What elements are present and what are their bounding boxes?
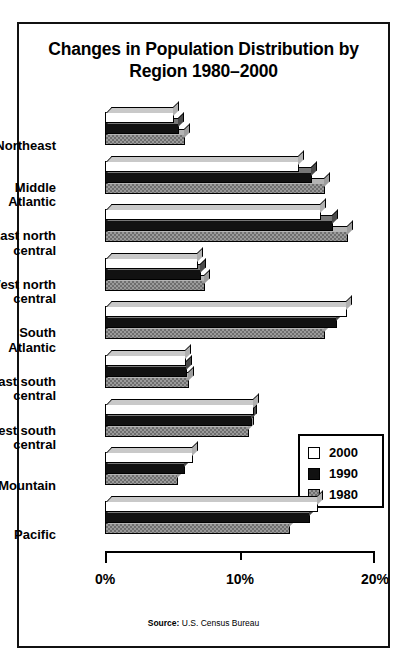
bar-top-face xyxy=(106,301,351,307)
source-prefix: Source: xyxy=(148,618,180,628)
bar-1980 xyxy=(105,523,290,534)
bar-1990 xyxy=(105,366,187,377)
bar-1980 xyxy=(105,474,178,485)
bar-group xyxy=(105,398,375,437)
bar-1980 xyxy=(105,183,325,194)
source-text: U.S. Census Bureau xyxy=(179,618,259,628)
category-label: Middle Atlantic xyxy=(0,181,56,210)
legend-item-1990[interactable]: 1990 xyxy=(308,463,382,484)
x-tick-label: 20% xyxy=(361,571,389,587)
bar-1990 xyxy=(105,123,179,134)
bar-1980 xyxy=(105,280,205,291)
bar-1990 xyxy=(105,512,310,523)
bar-top-face xyxy=(106,496,323,502)
bar-side-face xyxy=(346,296,352,311)
bar-top-face xyxy=(106,447,198,453)
bar-2000 xyxy=(105,501,318,512)
bar-group xyxy=(105,349,375,388)
category-label: West north central xyxy=(0,278,56,307)
category-label: East south central xyxy=(0,375,56,404)
bar-group xyxy=(105,155,375,194)
bar-2000 xyxy=(105,306,347,317)
category-label: Pacific xyxy=(0,528,56,543)
x-tick xyxy=(373,553,375,563)
bar-side-face xyxy=(347,220,353,235)
bar-2000 xyxy=(105,355,186,366)
bar-side-face xyxy=(253,393,259,408)
legend-label: 1990 xyxy=(329,466,358,481)
legend-swatch-2000 xyxy=(308,447,320,459)
bar-2000 xyxy=(105,452,193,463)
category-label: East north central xyxy=(0,229,56,258)
chart-title: Changes in Population Distribution by Re… xyxy=(19,38,388,83)
bar-2000 xyxy=(105,161,299,172)
legend-swatch-1990 xyxy=(308,468,320,480)
bar-side-face xyxy=(311,161,317,176)
bar-group xyxy=(105,203,375,242)
bar-top-face xyxy=(106,156,304,162)
bar-1980 xyxy=(105,134,185,145)
bar-1990 xyxy=(105,269,201,280)
bar-top-face xyxy=(106,350,191,356)
bar-1980 xyxy=(105,377,189,388)
x-tick-label: 0% xyxy=(95,571,115,587)
bar-2000 xyxy=(105,209,321,220)
bar-group xyxy=(105,300,375,339)
x-tick xyxy=(105,553,107,563)
legend-item-2000[interactable]: 2000 xyxy=(308,442,382,463)
bar-side-face xyxy=(298,150,304,165)
bar-top-face xyxy=(106,204,326,210)
bar-side-face xyxy=(173,101,179,116)
bar-1980 xyxy=(105,231,348,242)
legend-label: 2000 xyxy=(329,445,358,460)
bar-side-face xyxy=(197,247,203,262)
x-tick-label: 10% xyxy=(226,571,254,587)
x-tick xyxy=(240,553,242,560)
bar-1990 xyxy=(105,172,312,183)
bar-2000 xyxy=(105,404,254,415)
bar-group xyxy=(105,252,375,291)
bar-side-face xyxy=(332,209,338,224)
bar-top-face xyxy=(106,107,179,113)
bar-top-face xyxy=(106,399,258,405)
bar-side-face xyxy=(200,258,206,273)
bar-side-face xyxy=(204,269,210,284)
bar-1990 xyxy=(105,463,185,474)
category-label: South Atlantic xyxy=(0,326,56,355)
bar-side-face xyxy=(324,172,330,187)
category-label: Northeast xyxy=(0,139,56,154)
source-note: Source: U.S. Census Bureau xyxy=(19,618,388,628)
bar-side-face xyxy=(184,123,190,138)
bar-1980 xyxy=(105,328,325,339)
bar-1990 xyxy=(105,317,337,328)
bar-1990 xyxy=(105,415,252,426)
bar-side-face xyxy=(178,112,184,127)
bar-2000 xyxy=(105,112,174,123)
category-label: West south central xyxy=(0,424,56,453)
bar-side-face xyxy=(192,441,198,456)
bar-1990 xyxy=(105,220,333,231)
legend-label: 1980 xyxy=(329,487,358,502)
bar-side-face xyxy=(188,366,194,381)
bar-top-face xyxy=(106,253,203,259)
chart-frame: Changes in Population Distribution by Re… xyxy=(17,22,390,648)
bar-group xyxy=(105,106,375,145)
bar-1980 xyxy=(105,426,249,437)
category-label: Mountain xyxy=(0,479,56,494)
bar-2000 xyxy=(105,258,198,269)
bar-side-face xyxy=(320,198,326,213)
